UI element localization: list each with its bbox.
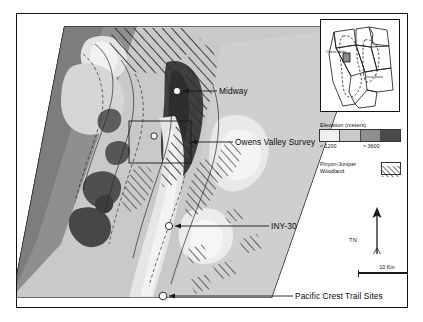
elevation-low-label: < 1200 [320, 143, 336, 149]
inset-map: Owens Valley Great Basin [320, 19, 400, 112]
north-arrow-label: TN [349, 237, 357, 243]
callout-label-pacific-crest-trail-sites: Pacific Crest Trail Sites [295, 291, 383, 301]
inset-map-graphic: Owens Valley Great Basin [321, 20, 399, 111]
site-marker-midway[interactable] [173, 87, 180, 94]
north-arrow: TN [347, 204, 397, 256]
site-marker-iny30[interactable] [165, 222, 172, 229]
map-frame: Midway Owens Valley Survey INY-30 Pacifi… [16, 13, 408, 308]
elevation-color-ramp [319, 129, 401, 142]
scale-tick-start [358, 270, 359, 277]
elevation-swatch-1 [320, 130, 340, 141]
vegetation-legend-entry: Pinyon-Juniper Woodland [319, 161, 405, 178]
vegetation-label-line1: Pinyon-Juniper [320, 161, 356, 167]
inset-label-great-basin: Great Basin [365, 75, 383, 79]
elevation-swatch-2 [340, 130, 360, 141]
inset-label-owens-valley: Owens Valley [326, 50, 347, 54]
site-marker-owens-valley-survey[interactable] [151, 133, 157, 139]
map-terrain [17, 26, 369, 300]
map-legend: Elevation (meters) < 1200 > 3600 Pinyon-… [319, 122, 405, 178]
scale-bar: 10 Km [355, 264, 408, 280]
vegetation-label-line2: Woodland [320, 168, 344, 174]
map-figure: Midway Owens Valley Survey INY-30 Pacifi… [0, 0, 423, 322]
elevation-legend-title: Elevation (meters) [319, 122, 405, 128]
inset-study-area-box [343, 53, 350, 62]
elevation-swatch-3 [361, 130, 381, 141]
north-arrow-icon [347, 204, 397, 256]
inset-state-outlines [329, 27, 393, 108]
callout-label-owens-valley-survey: Owens Valley Survey [235, 137, 315, 147]
site-marker-pacific-crest-trail[interactable] [159, 292, 167, 300]
scale-bar-label: 10 Km [355, 264, 408, 270]
elevation-swatch-4 [381, 130, 400, 141]
callout-label-iny30: INY-30 [271, 221, 297, 231]
elevation-ramp-labels: < 1200 > 3600 [319, 143, 401, 152]
vegetation-legend-label: Pinyon-Juniper Woodland [320, 161, 356, 175]
vegetation-hatch-swatch [381, 162, 401, 175]
elevation-high-label: > 3600 [363, 143, 379, 149]
scale-bar-line [358, 272, 408, 274]
callout-label-midway: Midway [219, 86, 248, 96]
